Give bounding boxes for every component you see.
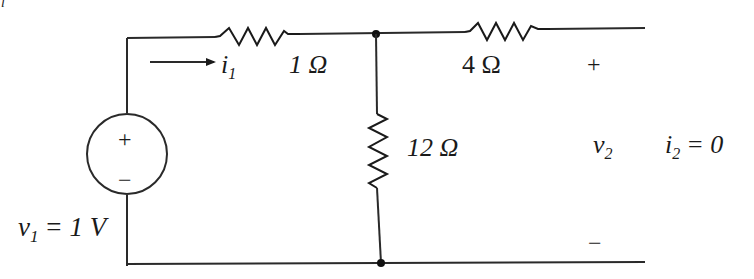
r1-value-label: 1 Ω — [289, 50, 327, 79]
i1-subscript: 1 — [228, 65, 236, 82]
corner-mark: l — [1, 0, 5, 10]
output-current-label: i2= 0 — [665, 130, 723, 162]
wire-middle-vertical-top — [376, 34, 377, 114]
i2-symbol: i — [665, 130, 672, 159]
output-voltage-label: v2 — [593, 130, 613, 162]
current-arrow-head-icon — [206, 58, 216, 66]
v2-symbol: v — [593, 130, 605, 159]
resistor-12-ohm — [369, 114, 387, 188]
i2-value: = 0 — [686, 130, 723, 159]
v2-subscript: 2 — [605, 145, 613, 162]
wire-bottom — [127, 262, 645, 264]
source-plus-sign: + — [118, 126, 132, 152]
current-i1-label: i1 — [221, 50, 236, 82]
source-symbol: v — [18, 212, 30, 242]
resistor-4-ohm — [465, 23, 550, 40]
source-minus-sign: − — [118, 167, 132, 193]
r3-value-label: 12 Ω — [407, 133, 458, 162]
output-plus-sign: + — [587, 51, 601, 77]
wire-top-right — [550, 28, 645, 29]
wire-top-left — [127, 37, 215, 38]
junction-bottom — [377, 259, 385, 267]
i1-symbol: i — [221, 50, 228, 79]
source-subscript: 1 — [30, 227, 39, 246]
resistor-1-ohm — [215, 28, 300, 45]
i2-subscript: 2 — [672, 145, 680, 162]
wire-middle-vertical-bottom — [377, 188, 381, 263]
circuit-diagram: l + − v1= 1 V i1 1 Ω 4 Ω 12 Ω + v2 — [0, 0, 754, 279]
source-value: = 1 V — [44, 212, 109, 242]
output-minus-sign: − — [588, 230, 602, 256]
source-label: v1= 1 V — [18, 212, 110, 246]
wire-top-middle — [300, 32, 465, 34]
r2-value-label: 4 Ω — [462, 50, 501, 79]
